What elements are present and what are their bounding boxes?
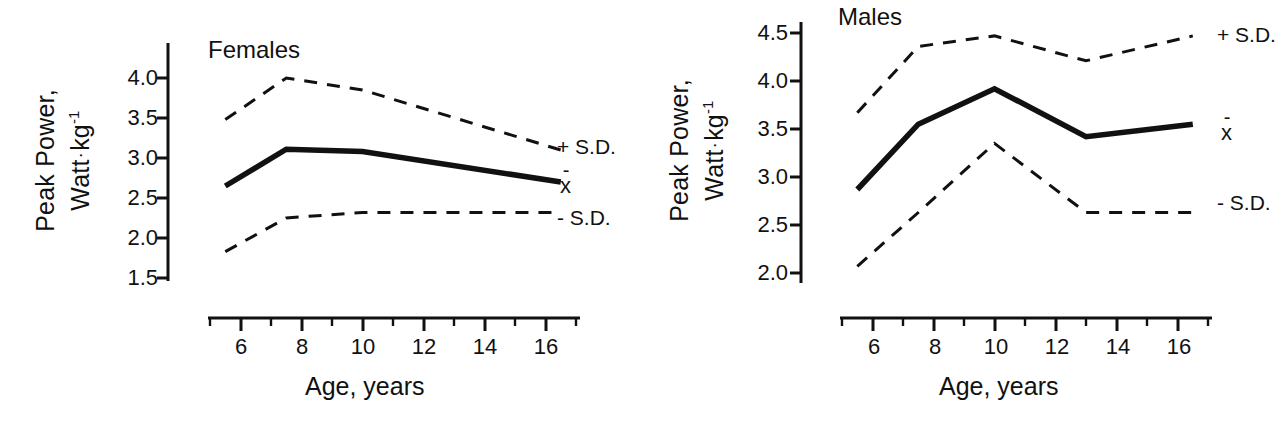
curve-lower-sd-females [225,212,561,251]
curve-mean-females [225,149,561,186]
curve-mean-males [857,89,1193,190]
y-axis-ticks [157,78,168,278]
curve-lower-sd-males [857,143,1193,266]
plot-area-males [641,0,1282,423]
panel-males: Peak Power, Watt·kg-1 Males 4.5 4.0 3.5 … [641,0,1282,423]
plot-area-females [0,0,641,423]
curve-upper-sd-females [225,78,561,150]
curve-upper-sd-males [857,36,1193,113]
y-axis-ticks [790,33,801,273]
panel-females: Peak Power, Watt·kg-1 Females 4.0 3.5 3.… [0,0,641,423]
figure-peak-power-vs-age: Peak Power, Watt·kg-1 Females 4.0 3.5 3.… [0,0,1282,423]
